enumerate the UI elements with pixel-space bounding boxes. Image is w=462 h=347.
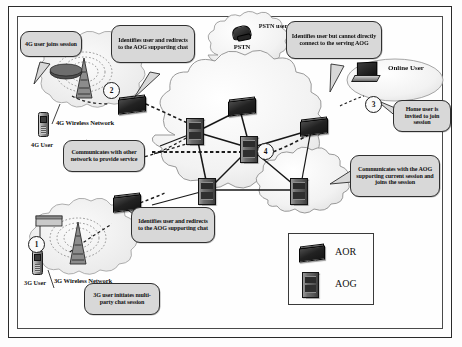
label-pstn-cloud: PSTN: [224, 43, 260, 51]
legend-aor-label: AOR: [335, 246, 356, 257]
callout-4g-user-joins: 4G user joins session: [20, 31, 82, 57]
legend-aog-icon: [302, 272, 319, 298]
callout-identify-cannot-connect: Identifies user but cannot directly conn…: [286, 21, 382, 59]
handset-4g-user[interactable]: [38, 112, 49, 137]
callout-3g-initiates-chat: 3G user initiates multi-party chat sessi…: [84, 283, 160, 315]
label-pstn-user: PSTN user: [258, 22, 288, 29]
aog-gateway-core-left[interactable]: [186, 118, 204, 145]
step-number-1: 1: [28, 236, 45, 253]
callout-identify-redirect-3g: Identifies user and redirects to the AOG…: [131, 207, 215, 243]
label-3g-user: 3G User: [20, 279, 50, 286]
online-user-laptop[interactable]: [352, 62, 382, 84]
legend-aor-icon: [299, 245, 325, 262]
legend-aog-label: AOG: [335, 278, 357, 289]
label-4g-wireless-network: 4G Wireless Network: [52, 119, 118, 127]
step-number-2: 2: [103, 82, 120, 99]
laptop-base-icon: [351, 75, 380, 82]
aog-gateway-core-center[interactable]: [240, 136, 258, 163]
callout-communicates-aog-joins: Communicates with the AOG supporting cur…: [350, 155, 440, 197]
aog-gateway-core-right[interactable]: [290, 178, 308, 205]
step-number-3: 3: [365, 96, 382, 113]
callout-communicates-other-network: Communicates with other network to provi…: [63, 140, 145, 172]
label-3g-wireless-network: 3G Wireless Network: [50, 277, 116, 285]
label-4g-user: 4G User: [27, 141, 57, 148]
diagram-canvas: 4G user joins session Identifies user an…: [0, 0, 462, 347]
callout-home-user-invited: Home user is invited to join session: [393, 100, 451, 132]
label-online-user: Online User: [388, 64, 424, 72]
legend-panel: AOR AOG: [288, 233, 374, 305]
step-number-4: 4: [257, 143, 274, 160]
handset-3g-user[interactable]: [32, 250, 43, 275]
aog-gateway-core-bottom[interactable]: [198, 178, 216, 205]
callout-identify-redirect-4g: Identifies user and redirects to the AOG…: [111, 25, 195, 63]
